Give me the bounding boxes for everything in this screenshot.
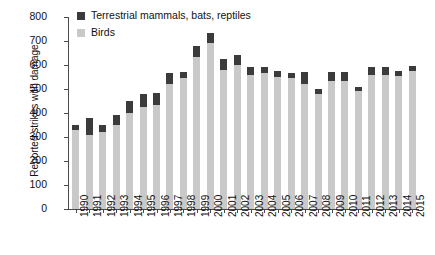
x-tick-label: 2011: [362, 195, 372, 217]
x-tick-mark: [305, 209, 306, 213]
y-tick-label: 600: [7, 59, 47, 70]
x-tick-mark: [89, 209, 90, 213]
x-tick-label: 2009: [336, 195, 346, 217]
dark-swatch-icon: [77, 12, 85, 20]
chart-container: Reported strikes with damage 01002003004…: [0, 0, 435, 255]
bar-segment-birds: [301, 84, 308, 209]
bar-segment-terrestrial: [126, 101, 133, 113]
x-tick-label: 2012: [376, 195, 386, 217]
x-tick-mark: [197, 209, 198, 213]
x-tick-label: 2002: [241, 195, 251, 217]
chart-legend: Terrestrial mammals, bats, reptiles Bird…: [77, 10, 251, 44]
x-tick-label: 1992: [107, 195, 117, 217]
bar-segment-terrestrial: [86, 118, 93, 135]
bar-column: [234, 55, 241, 209]
bar-segment-birds: [153, 105, 160, 209]
y-tick-mark: [64, 209, 69, 210]
bar-column: [315, 89, 322, 209]
bar-column: [368, 67, 375, 209]
bar-segment-terrestrial: [220, 59, 227, 70]
bar-column: [355, 87, 362, 209]
bar-column: [220, 59, 227, 209]
x-tick-mark: [130, 209, 131, 213]
bar-segment-birds: [368, 75, 375, 209]
bar-segment-birds: [315, 94, 322, 209]
x-tick-label: 1991: [93, 195, 103, 217]
bar-segment-birds: [355, 91, 362, 209]
bar-segment-terrestrial: [328, 72, 335, 80]
bar-segment-terrestrial: [193, 46, 200, 57]
bar-segment-birds: [328, 81, 335, 209]
x-tick-mark: [143, 209, 144, 213]
bar-segment-terrestrial: [166, 73, 173, 84]
bar-segment-birds: [409, 71, 416, 209]
x-tick-label: 2003: [255, 195, 265, 217]
x-tick-mark: [251, 209, 252, 213]
x-tick-label: 2004: [268, 195, 278, 217]
y-tick-label: 200: [7, 155, 47, 166]
bar-column: [261, 67, 268, 209]
x-tick-mark: [345, 209, 346, 213]
x-tick-mark: [318, 209, 319, 213]
bar-segment-terrestrial: [382, 67, 389, 74]
x-tick-mark: [224, 209, 225, 213]
bar-column: [140, 94, 147, 209]
x-tick-mark: [264, 209, 265, 213]
x-tick-label: 2014: [403, 195, 413, 217]
x-tick-label: 1990: [80, 195, 90, 217]
x-tick-label: 2015: [416, 195, 426, 217]
x-tick-mark: [157, 209, 158, 213]
x-tick-label: 2010: [349, 195, 359, 217]
x-tick-label: 1993: [120, 195, 130, 217]
y-tick-label: 0: [7, 203, 47, 214]
y-tick-label: 700: [7, 35, 47, 46]
bar-segment-birds: [140, 107, 147, 209]
x-tick-mark: [76, 209, 77, 213]
x-tick-label: 2005: [282, 195, 292, 217]
bar-segment-terrestrial: [368, 67, 375, 74]
x-tick-mark: [116, 209, 117, 213]
bar-column: [247, 67, 254, 209]
bar-segment-birds: [382, 75, 389, 209]
bar-segment-terrestrial: [99, 125, 106, 132]
bar-segment-terrestrial: [234, 55, 241, 65]
x-tick-label: 1998: [187, 195, 197, 217]
bar-segment-terrestrial: [113, 115, 120, 125]
legend-item-terrestrial: Terrestrial mammals, bats, reptiles: [77, 10, 251, 21]
x-tick-mark: [372, 209, 373, 213]
x-tick-mark: [332, 209, 333, 213]
bar-column: [207, 33, 214, 209]
bar-column: [126, 101, 133, 209]
bar-column: [341, 72, 348, 209]
bar-segment-terrestrial: [341, 72, 348, 80]
x-tick-label: 2000: [214, 195, 224, 217]
x-tick-label: 2001: [228, 195, 238, 217]
x-tick-mark: [399, 209, 400, 213]
bar-column: [193, 46, 200, 209]
x-tick-mark: [291, 209, 292, 213]
bar-segment-birds: [207, 43, 214, 209]
bar-segment-birds: [220, 70, 227, 209]
x-tick-label: 1999: [201, 195, 211, 217]
x-tick-label: 2006: [295, 195, 305, 217]
bar-segment-birds: [193, 57, 200, 209]
x-tick-label: 1995: [147, 195, 157, 217]
y-tick-label: 800: [7, 11, 47, 22]
legend-label-birds: Birds: [91, 27, 115, 38]
y-tick-label: 300: [7, 131, 47, 142]
legend-item-birds: Birds: [77, 27, 251, 38]
bar-segment-terrestrial: [153, 93, 160, 105]
x-tick-label: 2008: [322, 195, 332, 217]
bar-column: [288, 73, 295, 209]
x-tick-mark: [237, 209, 238, 213]
plot-area: 0100200300400500600700800 19901991199219…: [69, 17, 419, 209]
bar-segment-birds: [180, 78, 187, 209]
x-tick-label: 2007: [309, 195, 319, 217]
bar-segment-birds: [247, 75, 254, 209]
bar-segment-birds: [288, 78, 295, 209]
bar-column: [395, 71, 402, 209]
x-tick-mark: [170, 209, 171, 213]
y-tick-label: 400: [7, 107, 47, 118]
x-tick-mark: [210, 209, 211, 213]
bar-segment-terrestrial: [247, 67, 254, 74]
